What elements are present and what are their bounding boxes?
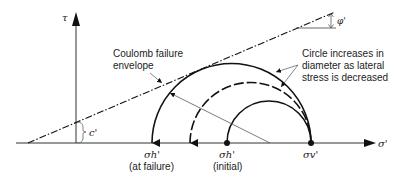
sigma-h-failure-label: σh' xyxy=(144,149,160,160)
circle-note-leader-2 xyxy=(281,65,298,87)
intermediate-foot-arrow-icon xyxy=(190,139,198,147)
friction-angle-label: φ' xyxy=(337,16,346,26)
sigma-h-initial-point xyxy=(224,140,230,146)
coulomb-failure-envelope xyxy=(28,12,335,143)
sigma-h-initial-note: (initial) xyxy=(213,161,242,172)
envelope-leader xyxy=(150,73,162,83)
sigma-v-label: σv' xyxy=(303,149,318,160)
mohr-circle-diagram: τ σ' Coulomb failure envelope Circle inc… xyxy=(0,0,394,179)
sigma-v-point xyxy=(308,140,314,146)
sigma-h-failure-note: (at failure) xyxy=(129,161,174,172)
tau-axis-arrow-icon xyxy=(72,12,80,26)
circle-note-leader-1 xyxy=(276,65,298,72)
cohesion-brace xyxy=(77,122,86,143)
cohesion-label: c' xyxy=(89,127,97,138)
friction-angle-marker xyxy=(296,14,336,29)
sigma-h-initial-label: σh' xyxy=(219,149,235,160)
sigma-axis-label: σ' xyxy=(378,138,388,149)
sigma-axis-arrow-icon xyxy=(364,139,376,147)
circle-note-line1: Circle increases in xyxy=(302,48,384,59)
tau-axis-label: τ xyxy=(62,12,68,23)
envelope-label-line2: envelope xyxy=(113,60,154,71)
envelope-label-line1: Coulomb failure xyxy=(113,48,183,59)
failure-foot-arrow-icon xyxy=(152,139,160,147)
tau-axis xyxy=(72,12,80,143)
circle-note-line2: diameter as lateral xyxy=(302,60,384,71)
mohr-circle-failure xyxy=(152,63,311,143)
circle-note-line3: stress is decreased xyxy=(302,72,388,83)
radius-growth-arrow xyxy=(170,93,270,143)
